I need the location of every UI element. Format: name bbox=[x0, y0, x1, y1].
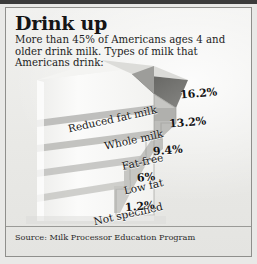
infographic-clipping: Reduced fat milk Whole milk Fat-free Low… bbox=[0, 0, 257, 264]
top-rule bbox=[0, 0, 257, 4]
chart-subtitle: More than 45% of Americans ages 4 and ol… bbox=[15, 34, 239, 69]
bar-value-reduced-fat-milk: 16.2% bbox=[180, 85, 218, 101]
page-title: Drink up bbox=[15, 12, 107, 34]
source-note: Source: Milk Processor Education Program bbox=[15, 232, 195, 242]
bar-value-fat-free: 9.4% bbox=[152, 143, 183, 159]
bar-value-whole-milk: 13.2% bbox=[169, 114, 207, 130]
chart-panel: Reduced fat milk Whole milk Fat-free Low… bbox=[5, 7, 252, 257]
bar-value-low-fat: 6% bbox=[136, 170, 155, 185]
source-divider bbox=[6, 226, 251, 227]
bar-value-not-specified: 1.2% bbox=[124, 199, 155, 215]
